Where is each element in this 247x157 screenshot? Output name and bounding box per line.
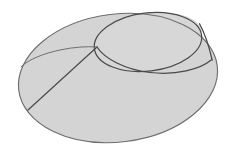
figure-canvas bbox=[0, 0, 247, 157]
cone-body-group bbox=[11, 2, 225, 153]
oblique-cone-figure bbox=[0, 0, 247, 157]
